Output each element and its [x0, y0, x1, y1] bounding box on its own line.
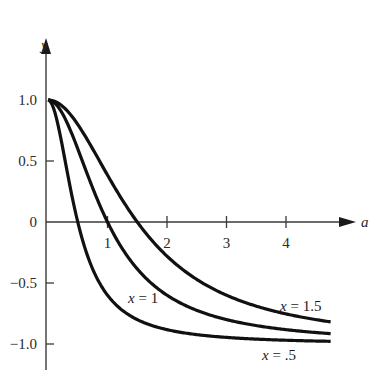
curve-label-x-0-5: x = .5	[261, 347, 296, 363]
y-tick-label: −0.5	[10, 275, 37, 291]
chart-canvas: y a 12341.00.50−0.5−1.0 x = 1 x = 1.5 x …	[0, 0, 377, 381]
curve-label-x-1-5: x = 1.5	[279, 298, 321, 314]
x-axis-label: a	[361, 214, 369, 230]
y-tick-label: 0.5	[18, 153, 37, 169]
y-tick-label: 0	[30, 214, 38, 230]
x-tick-label: 4	[282, 235, 290, 251]
y-tick-label: 1.0	[18, 92, 37, 108]
y-tick-label: −1.0	[10, 336, 37, 352]
x-axis-arrow-icon	[339, 217, 356, 227]
curve-label-value: = .5	[269, 347, 296, 363]
x-tick-label: 3	[223, 235, 231, 251]
y-axis-label: y	[39, 37, 48, 53]
curve-label-value: = 1	[135, 290, 158, 306]
curve-label-value: = 1.5	[287, 298, 322, 314]
x-tick-label: 2	[163, 235, 171, 251]
x-tick-label: 1	[104, 235, 112, 251]
curve-label-x-1: x = 1	[127, 290, 158, 306]
curve-x-1-5	[48, 100, 331, 322]
